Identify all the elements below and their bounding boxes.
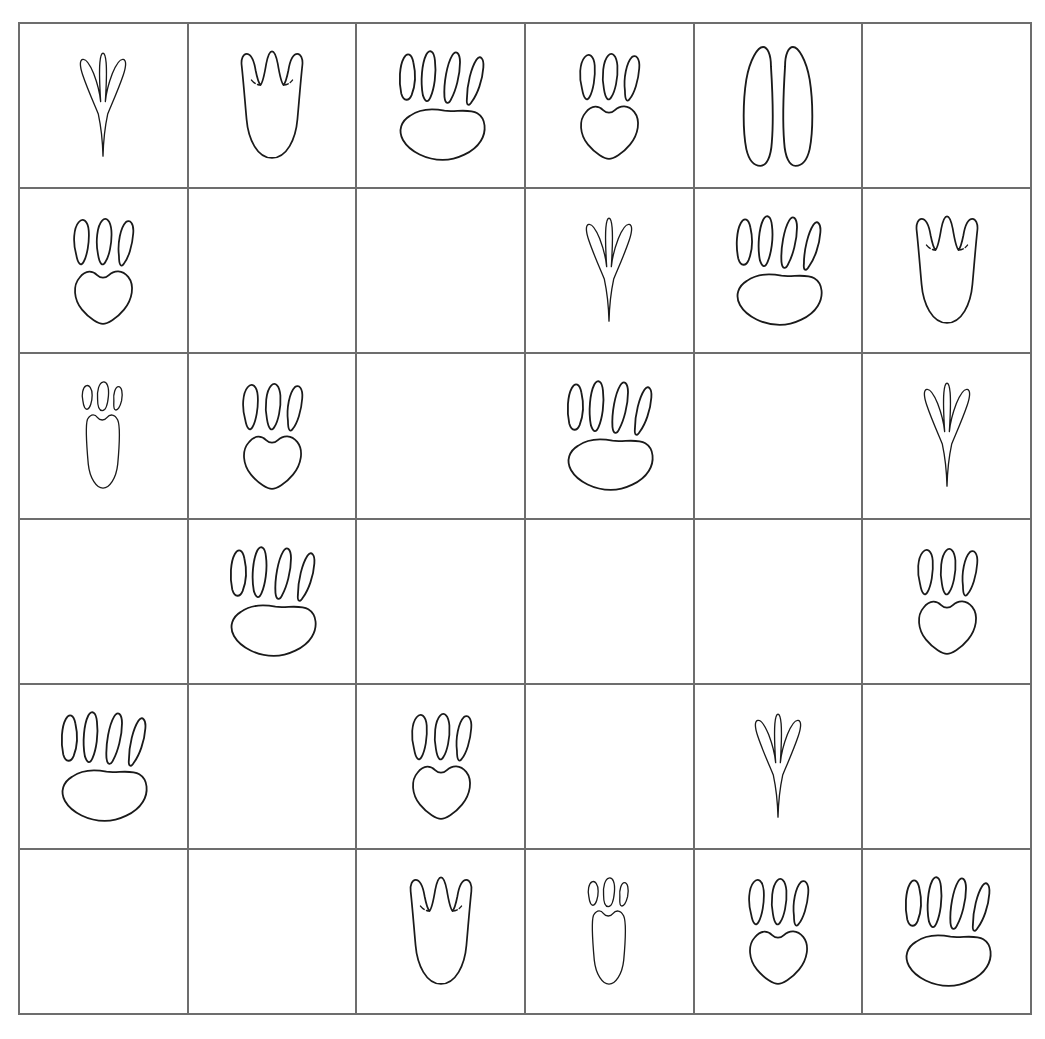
bird-track-icon [526, 189, 693, 352]
dog-three-toe-track-svg [399, 707, 483, 825]
grid-cell-r5-c3[interactable] [357, 685, 526, 850]
badger-four-toe-track-svg [389, 45, 493, 166]
badger-four-toe-track-svg [726, 210, 830, 331]
grid-cell-r3-c6[interactable] [863, 354, 1032, 519]
track-sudoku-grid [18, 22, 1032, 1015]
grid-cell-r1-c2[interactable] [189, 24, 358, 189]
grid-cell-r5-c1[interactable] [20, 685, 189, 850]
badger-four-toe-track-icon [526, 354, 693, 517]
dog-three-toe-track-icon [189, 354, 356, 517]
dog-three-toe-track-icon [526, 24, 693, 187]
dog-three-toe-track-icon [863, 520, 1030, 683]
duck-webbed-track-icon [189, 24, 356, 187]
badger-four-toe-track-svg [51, 706, 155, 827]
grid-cell-r2-c6[interactable] [863, 189, 1032, 354]
grid-cell-r3-c3[interactable] [357, 354, 526, 519]
bird-track-svg [739, 708, 817, 825]
grid-cell-r1-c5[interactable] [695, 24, 864, 189]
grid-cell-r6-c1[interactable] [20, 850, 189, 1015]
grid-cell-r6-c6[interactable] [863, 850, 1032, 1015]
duck-webbed-track-icon [357, 850, 524, 1013]
rabbit-narrow-track-svg [72, 377, 134, 494]
badger-four-toe-track-svg [557, 375, 661, 496]
dog-three-toe-track-icon [20, 189, 187, 352]
grid-cell-r4-c1[interactable] [20, 520, 189, 685]
deer-hoof-track-svg [734, 40, 822, 172]
grid-cell-r3-c4[interactable] [526, 354, 695, 519]
grid-cell-r1-c4[interactable] [526, 24, 695, 189]
grid-cell-r6-c2[interactable] [189, 850, 358, 1015]
grid-cell-r1-c6[interactable] [863, 24, 1032, 189]
badger-four-toe-track-icon [357, 24, 524, 187]
grid-cell-r2-c3[interactable] [357, 189, 526, 354]
grid-cell-r2-c1[interactable] [20, 189, 189, 354]
badger-four-toe-track-icon [20, 685, 187, 848]
grid-cell-r5-c6[interactable] [863, 685, 1032, 850]
dog-three-toe-track-svg [567, 47, 651, 165]
rabbit-narrow-track-icon [20, 354, 187, 517]
duck-webbed-track-svg [231, 44, 313, 167]
bird-track-icon [863, 354, 1030, 517]
duck-webbed-track-svg [906, 209, 988, 332]
bird-track-svg [908, 377, 986, 494]
grid-cell-r2-c4[interactable] [526, 189, 695, 354]
badger-four-toe-track-svg [220, 541, 324, 662]
bird-track-svg [64, 47, 142, 164]
grid-cell-r6-c3[interactable] [357, 850, 526, 1015]
grid-cell-r5-c4[interactable] [526, 685, 695, 850]
grid-cell-r4-c3[interactable] [357, 520, 526, 685]
dog-three-toe-track-svg [905, 542, 989, 660]
grid-cell-r4-c6[interactable] [863, 520, 1032, 685]
dog-three-toe-track-svg [61, 212, 145, 330]
grid-cell-r3-c5[interactable] [695, 354, 864, 519]
deer-hoof-track-icon [695, 24, 862, 187]
rabbit-narrow-track-svg [578, 873, 640, 990]
grid-cell-r3-c1[interactable] [20, 354, 189, 519]
grid-cell-r2-c2[interactable] [189, 189, 358, 354]
rabbit-narrow-track-icon [526, 850, 693, 1013]
grid-cell-r3-c2[interactable] [189, 354, 358, 519]
grid-cell-r1-c3[interactable] [357, 24, 526, 189]
grid-cell-r4-c5[interactable] [695, 520, 864, 685]
grid-cell-r5-c2[interactable] [189, 685, 358, 850]
grid-cell-r6-c5[interactable] [695, 850, 864, 1015]
grid-cell-r2-c5[interactable] [695, 189, 864, 354]
dog-three-toe-track-svg [736, 872, 820, 990]
grid-cell-r5-c5[interactable] [695, 685, 864, 850]
grid-cell-r4-c2[interactable] [189, 520, 358, 685]
badger-four-toe-track-icon [863, 850, 1030, 1013]
grid-cell-r1-c1[interactable] [20, 24, 189, 189]
dog-three-toe-track-icon [357, 685, 524, 848]
puzzle-page [0, 0, 1045, 1039]
duck-webbed-track-svg [400, 870, 482, 993]
dog-three-toe-track-svg [230, 377, 314, 495]
badger-four-toe-track-icon [695, 189, 862, 352]
badger-four-toe-track-svg [895, 871, 999, 992]
bird-track-icon [20, 24, 187, 187]
grid-cell-r6-c4[interactable] [526, 850, 695, 1015]
duck-webbed-track-icon [863, 189, 1030, 352]
grid-cell-r4-c4[interactable] [526, 520, 695, 685]
bird-track-icon [695, 685, 862, 848]
bird-track-svg [570, 212, 648, 329]
badger-four-toe-track-icon [189, 520, 356, 683]
dog-three-toe-track-icon [695, 850, 862, 1013]
